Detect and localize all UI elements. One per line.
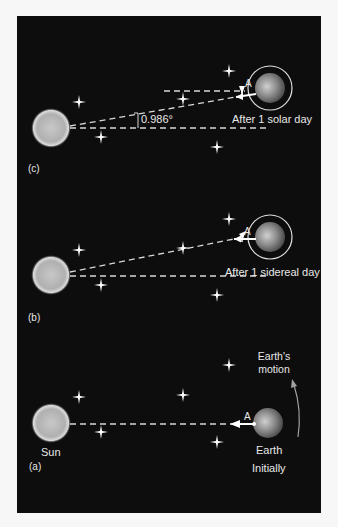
earth-motion-arrow (294, 385, 299, 437)
earth-motion-label-2: motion (252, 363, 296, 375)
angle-label: 0.986° (141, 113, 173, 125)
earth-motion-label-1: Earth's (252, 350, 296, 362)
panel-label-b: (b) (28, 312, 40, 323)
sun-icon (31, 403, 71, 443)
caption-initially: Initially (252, 462, 286, 474)
panel-b (31, 212, 292, 302)
panel-label-a: (a) (29, 461, 41, 472)
earth-icon (255, 222, 285, 252)
caption-solar-day: After 1 solar day (232, 113, 312, 125)
sun-label: Sun (41, 446, 61, 458)
earth-label: Earth (256, 444, 282, 456)
point-a-label: A (245, 78, 252, 89)
earth-icon (253, 408, 283, 438)
point-a-label: A (244, 411, 251, 422)
sun-icon (31, 255, 71, 295)
sun-icon (31, 108, 71, 148)
panel-label-c: (c) (28, 163, 40, 174)
point-a-label: A (244, 226, 251, 237)
caption-sidereal-day: After 1 sidereal day (225, 266, 320, 278)
earth-icon (255, 73, 285, 103)
panel-c (31, 64, 292, 154)
